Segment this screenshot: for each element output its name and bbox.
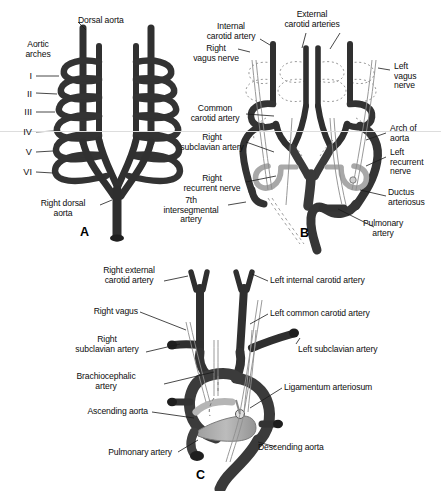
label-left-recurrent-nerve: Left recurrent nerve [390,148,440,177]
label-pulmonary-artery-b: Pulmonary artery [352,219,414,238]
label-right-vagus-nerve: Right vagus nerve [190,44,242,63]
label-common-carotid-artery: Common carotid artery [182,104,248,123]
figure-artwork [0,0,441,491]
label-internal-carotid-artery: Internal carotid artery [196,22,266,41]
label-pulmonary-artery-c: Pulmonary artery [64,448,172,458]
label-right-subclavian-artery: Right subclavian artery [176,133,248,152]
label-left-vagus-nerve: Left vagus nerve [394,62,440,91]
label-dorsal-aorta: Dorsal aorta [78,16,124,26]
arch-numeral-1: I [8,71,32,81]
label-ligamentum-arteriosum: Ligamentum arteriosum [284,383,372,393]
arch-numeral-5: V [8,147,32,157]
arch-numeral-6: VI [8,167,32,177]
label-descending-aorta: Descending aorta [258,443,324,453]
panel-letter-a: A [80,225,89,239]
label-aortic-arches: Aortic arches [14,40,62,59]
arch-numeral-2: II [8,89,32,99]
label-left-internal-carotid-artery: Left internal carotid artery [270,276,365,286]
label-right-subclavian-artery-c: Right subclavian artery [68,335,146,354]
panel-letter-b: B [300,226,309,240]
label-ductus-arteriosus: Ductus arteriosus [388,188,440,207]
label-external-carotid-arteries: External carotid arteries [268,10,356,29]
label-7th-intersegmental-artery: 7th intersegmental artery [152,196,230,225]
label-right-dorsal-aorta: Right dorsal aorta [24,199,102,218]
label-right-external-carotid-artery: Right external carotid artery [90,266,168,285]
label-left-common-carotid-artery: Left common carotid artery [270,309,370,319]
label-ascending-aorta: Ascending aorta [60,407,148,417]
label-brachiocephalic-artery: Brachiocephalic artery [66,372,146,391]
aortic-arch-development-figure: Dorsal aorta Aortic arches I II III IV V… [0,0,441,491]
arch-numeral-4: IV [8,127,32,137]
label-right-vagus: Right vagus [66,307,138,317]
label-arch-of-aorta: Arch of aorta [390,124,438,143]
label-left-subclavian-artery: Left subclavian artery [298,345,377,355]
panel-letter-c: C [196,468,205,482]
label-right-recurrent-nerve: Right recurrent nerve [176,174,248,193]
arch-numeral-3: III [8,107,32,117]
